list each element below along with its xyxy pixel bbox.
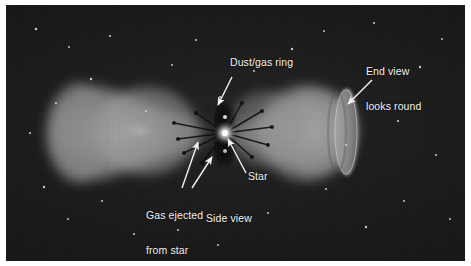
annotated-astronomy-figure: Dust/gas ring End view looks round Star …: [0, 0, 471, 266]
arrow-gas-ejected-2: [192, 157, 212, 188]
label-side-view: Side view: [206, 213, 252, 225]
label-end-view-looks-round: End view looks round: [366, 43, 421, 135]
label-dust-gas-ring: Dust/gas ring: [230, 57, 293, 69]
photographic-plate: Dust/gas ring End view looks round Star …: [6, 5, 465, 261]
label-star: Star: [248, 171, 268, 183]
arrow-dust-gas-ring: [218, 77, 232, 105]
arrow-gas-ejected-1: [182, 142, 198, 188]
label-gas-ejected-line-1: Gas ejected: [146, 210, 203, 222]
label-gas-ejected-line-2: from star: [146, 245, 203, 257]
arrow-star: [228, 139, 246, 173]
label-gas-ejected-from-star: Gas ejected from star: [146, 187, 203, 261]
label-end-view-line-2: looks round: [366, 101, 421, 113]
label-end-view-line-1: End view: [366, 66, 421, 78]
